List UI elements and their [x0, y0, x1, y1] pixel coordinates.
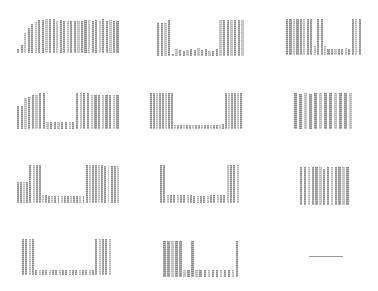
bar: [36, 165, 38, 203]
bar: [82, 270, 84, 275]
bar: [56, 21, 58, 53]
bar: [61, 196, 63, 203]
bar: [64, 196, 66, 203]
bar: [20, 182, 22, 203]
bar: [225, 93, 227, 129]
bar: [338, 49, 340, 55]
bar: [195, 270, 198, 277]
bar: [108, 166, 110, 203]
bar: [61, 122, 63, 129]
bar: [329, 93, 332, 129]
chart-panel-r3c1: [17, 165, 120, 203]
bar: [60, 20, 62, 53]
bar: [49, 270, 51, 275]
bar: [207, 125, 209, 129]
chart-panel-r1c3: [286, 19, 362, 55]
bar: [310, 19, 312, 55]
bar: [231, 93, 233, 129]
bar: [26, 182, 28, 203]
bar: [77, 21, 79, 53]
bar: [212, 270, 215, 277]
bar: [203, 196, 205, 203]
bar: [222, 124, 224, 129]
bar: [348, 49, 350, 55]
bar: [161, 23, 163, 56]
bar: [232, 270, 235, 277]
bar: [32, 95, 34, 129]
bar: [324, 46, 326, 55]
bar: [58, 196, 60, 203]
bar: [49, 19, 51, 53]
bar: [236, 241, 239, 277]
bar: [105, 239, 107, 275]
bar: [98, 165, 100, 203]
bar: [28, 28, 30, 53]
bar: [190, 195, 192, 203]
bar: [87, 93, 89, 129]
bar: [193, 196, 195, 203]
bar: [164, 23, 166, 56]
bar: [63, 21, 65, 53]
bar: [345, 48, 347, 55]
bar: [171, 93, 173, 129]
bar: [319, 167, 321, 205]
bar: [171, 241, 174, 277]
bar: [190, 49, 192, 56]
bar: [314, 46, 316, 55]
bar: [199, 270, 202, 277]
bar: [338, 167, 340, 205]
bar: [111, 166, 113, 203]
bar: [304, 167, 306, 205]
bar: [42, 195, 44, 203]
bar: [180, 125, 182, 129]
chart-panel-r4c3: [309, 256, 343, 257]
flat-line: [309, 256, 343, 257]
bar: [233, 165, 235, 203]
bar: [304, 93, 307, 129]
bar: [216, 270, 219, 277]
bar: [346, 167, 348, 205]
bar: [70, 196, 72, 203]
bar: [113, 95, 115, 129]
bar: [48, 196, 50, 203]
bar: [53, 19, 55, 53]
bar: [38, 20, 40, 53]
bar: [84, 20, 86, 53]
bar: [327, 167, 329, 205]
bar: [175, 241, 178, 277]
bar: [324, 93, 327, 129]
bar: [312, 167, 314, 205]
bar: [109, 239, 111, 275]
bar: [286, 19, 288, 55]
bar: [296, 19, 298, 55]
bar: [197, 48, 199, 56]
bar: [43, 93, 45, 129]
bar: [177, 195, 179, 203]
bar: [99, 239, 101, 275]
bar: [219, 20, 221, 56]
bar: [116, 21, 118, 53]
bar: [89, 165, 91, 203]
bar: [162, 93, 164, 129]
bar: [168, 93, 170, 129]
bar: [153, 93, 155, 129]
bar: [104, 166, 106, 203]
bar: [223, 195, 225, 203]
bar: [163, 165, 165, 203]
bar: [50, 122, 52, 129]
bar: [227, 165, 229, 203]
bar: [35, 95, 37, 129]
bar: [204, 270, 207, 277]
bar: [213, 125, 215, 129]
bar: [300, 167, 302, 205]
bar: [72, 270, 74, 275]
bar: [331, 167, 333, 205]
bar: [187, 195, 189, 203]
bar: [83, 196, 85, 203]
bar: [314, 93, 317, 129]
bar: [240, 93, 242, 129]
bar: [102, 239, 104, 275]
bar: [341, 49, 343, 55]
bar: [95, 20, 97, 53]
bar: [192, 125, 194, 129]
